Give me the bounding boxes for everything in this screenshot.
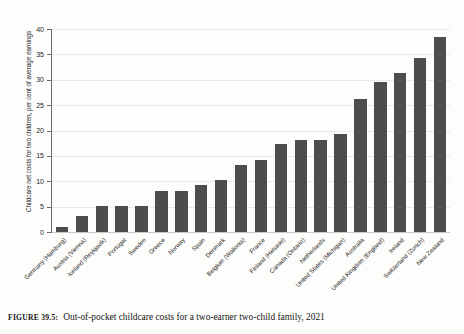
gridline xyxy=(52,181,450,182)
figure-caption: Figure 39.5:Out-of-pocket childcare cost… xyxy=(8,312,458,323)
x-axis-line xyxy=(51,232,450,233)
bar-chart: Childcare net costs for two children, pe… xyxy=(0,0,464,306)
bar xyxy=(155,191,167,232)
bar xyxy=(334,134,346,232)
gridlines xyxy=(52,29,450,232)
y-tick-label: 25 xyxy=(0,102,44,109)
bar xyxy=(175,191,187,232)
y-tick-label: 35 xyxy=(0,51,44,58)
gridline xyxy=(52,207,450,208)
y-tick-mark xyxy=(47,131,51,132)
figure-caption-tag: Figure 39.5: xyxy=(8,313,58,322)
bar xyxy=(76,216,88,232)
plot-area xyxy=(52,29,450,232)
gridline xyxy=(52,105,450,106)
y-tick-mark xyxy=(47,29,51,30)
bar xyxy=(255,160,267,232)
bar xyxy=(235,165,247,232)
bar xyxy=(275,144,287,232)
bar xyxy=(215,180,227,232)
y-tick-label: 5 xyxy=(0,203,44,210)
bar xyxy=(394,73,406,232)
y-tick-label: 30 xyxy=(0,76,44,83)
bar xyxy=(195,185,207,232)
bar xyxy=(374,82,386,232)
y-tick-mark xyxy=(47,156,51,157)
bar xyxy=(314,140,326,232)
figure-container: Childcare net costs for two children, pe… xyxy=(0,0,464,334)
y-tick-mark xyxy=(47,54,51,55)
bar xyxy=(135,206,147,232)
y-tick-label: 15 xyxy=(0,152,44,159)
gridline xyxy=(52,131,450,132)
bar xyxy=(414,58,426,232)
bar xyxy=(295,140,307,232)
bar xyxy=(96,206,108,232)
bar xyxy=(115,206,127,232)
y-tick-mark xyxy=(47,181,51,182)
gridline xyxy=(52,156,450,157)
y-tick-mark xyxy=(47,80,51,81)
figure-caption-text: Out-of-pocket childcare costs for a two-… xyxy=(63,312,325,322)
bar xyxy=(434,37,446,232)
gridline xyxy=(52,29,450,30)
y-tick-label: 40 xyxy=(0,26,44,33)
y-tick-label: 20 xyxy=(0,127,44,134)
y-tick-mark xyxy=(47,207,51,208)
gridline xyxy=(52,54,450,55)
y-tick-label: 0 xyxy=(0,229,44,236)
y-tick-mark xyxy=(47,105,51,106)
gridline xyxy=(52,80,450,81)
bar xyxy=(56,227,68,232)
y-tick-mark xyxy=(47,232,51,233)
bar xyxy=(354,99,366,232)
y-tick-label: 10 xyxy=(0,178,44,185)
